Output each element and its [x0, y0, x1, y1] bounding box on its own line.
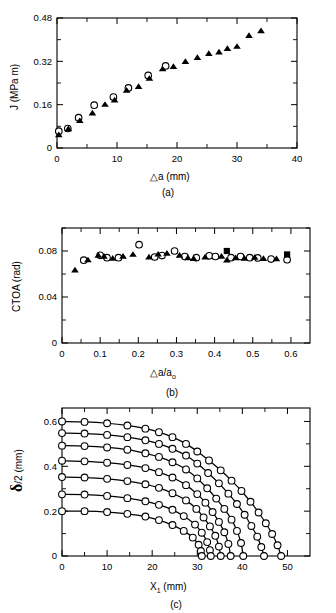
delta-glyph-b: △: [150, 367, 158, 378]
panel-c-y-axis-label: δ/2 (mm): [8, 449, 25, 492]
curve-marker: [183, 466, 190, 473]
curve-line: [62, 421, 281, 556]
curve-marker: [81, 443, 88, 450]
x-tick-label: 50: [282, 561, 293, 572]
curve-marker: [234, 527, 241, 534]
x-tick-label: 20: [172, 153, 183, 164]
curve-marker: [183, 497, 190, 504]
curve-marker: [274, 542, 281, 549]
panel-c-y-axis-label-text: /2 (mm): [13, 449, 24, 483]
panel-c-delta-over-2-vs-x1: 00.20.40.6 01020304050 δ/2 (mm) X1 (mm) …: [0, 400, 336, 613]
curve-marker: [180, 513, 187, 520]
delta-glyph-a: △: [150, 171, 158, 182]
y-tick-label: 0.4: [44, 461, 57, 472]
curve-marker: [169, 474, 176, 481]
panel-b-x-axis-label: △a/ao: [150, 367, 176, 380]
panel-c-x-tick-labels: 01020304050: [59, 561, 292, 572]
curve-marker: [194, 448, 201, 455]
y-tick-label: 0.32: [34, 56, 53, 67]
data-point-triangle: [170, 63, 178, 69]
curve-marker: [194, 491, 201, 498]
x-tick-label: 0.4: [208, 348, 221, 359]
data-point-triangle: [135, 83, 143, 89]
curve-marker: [216, 480, 223, 487]
curve-marker: [124, 422, 131, 429]
curve-marker: [241, 511, 248, 518]
curve-marker: [198, 529, 205, 536]
panel-b-x-tick-labels: 00.10.20.30.40.50.6: [59, 348, 297, 359]
data-point-circle: [212, 253, 219, 260]
panel-a-x-tick-labels: 010203040: [54, 153, 302, 164]
curve-marker: [206, 457, 213, 464]
curve-marker: [169, 522, 176, 529]
curve-marker: [200, 514, 207, 521]
curve-marker: [278, 553, 285, 560]
curve-marker: [180, 527, 187, 534]
delta-symbol: δ: [8, 484, 25, 492]
x-tick-label: 0: [59, 348, 64, 359]
curve-marker: [216, 519, 223, 526]
curve-marker: [205, 470, 212, 477]
y-tick-label: 0.16: [34, 99, 53, 110]
curve-marker: [59, 430, 66, 437]
panel-a-data-markers: [55, 27, 265, 137]
curve-marker: [59, 474, 66, 481]
curve-marker: [104, 444, 111, 451]
data-point-triangle: [233, 43, 241, 49]
curve-marker: [81, 474, 88, 481]
x-tick-label: 0: [59, 561, 64, 572]
curve-marker: [156, 469, 163, 476]
data-point-circle: [171, 248, 178, 255]
curve-marker: [202, 499, 209, 506]
curve-marker: [216, 543, 223, 550]
curve-marker: [240, 553, 247, 560]
curve-marker: [81, 419, 88, 426]
curve-marker: [59, 418, 66, 425]
curve-marker: [238, 488, 245, 495]
curve-marker: [228, 516, 235, 523]
curve-marker: [124, 510, 131, 517]
curve-marker: [169, 490, 176, 497]
curve-marker: [104, 509, 111, 516]
curve-marker: [59, 442, 66, 449]
x-tick-label: 0.2: [132, 348, 145, 359]
curve-marker: [262, 520, 269, 527]
curve-marker: [81, 508, 88, 515]
curve-marker: [142, 437, 149, 444]
curve-marker: [156, 429, 163, 436]
data-point-triangle: [182, 58, 190, 64]
curve-marker: [192, 521, 199, 528]
curve-marker: [59, 508, 66, 515]
three-panel-figure: 00.160.320.48 010203040 J (MPa m) △a (mm…: [0, 0, 336, 613]
curve-line: [62, 494, 211, 556]
panel-a-x-axis-label: △a (mm): [150, 171, 190, 182]
curve-marker: [156, 501, 163, 508]
curve-marker: [124, 446, 131, 453]
curve-marker: [156, 517, 163, 524]
curve-marker: [213, 495, 220, 502]
data-point-triangle: [205, 50, 213, 56]
y-tick-label: 0: [52, 337, 57, 348]
panel-a-axes: [57, 18, 297, 148]
curve-marker: [228, 477, 235, 484]
panel-c-x-axis-label-text: (mm): [161, 581, 187, 592]
curve-marker: [255, 509, 262, 516]
x-tick-label: 20: [147, 561, 158, 572]
curve-marker: [169, 459, 176, 466]
curve-marker: [156, 484, 163, 491]
curve-marker: [209, 509, 216, 516]
y-tick-label: 0: [47, 142, 52, 153]
x-tick-label: 40: [237, 561, 248, 572]
curve-marker: [234, 501, 241, 508]
curve-marker: [169, 434, 176, 441]
curve-marker: [194, 460, 201, 467]
panel-b-caption: (b): [166, 387, 178, 398]
curve-marker: [212, 532, 219, 539]
curve-marker: [247, 498, 254, 505]
y-tick-label: 0.04: [39, 291, 58, 302]
x-tick-label: 0.3: [170, 348, 183, 359]
y-tick-label: 0.2: [44, 506, 57, 517]
x-tick-label: 30: [232, 153, 243, 164]
panel-b-svg: 00.040.08 00.10.20.30.40.50.6 CTOA (rad)…: [0, 200, 336, 400]
curve-marker: [59, 491, 66, 498]
